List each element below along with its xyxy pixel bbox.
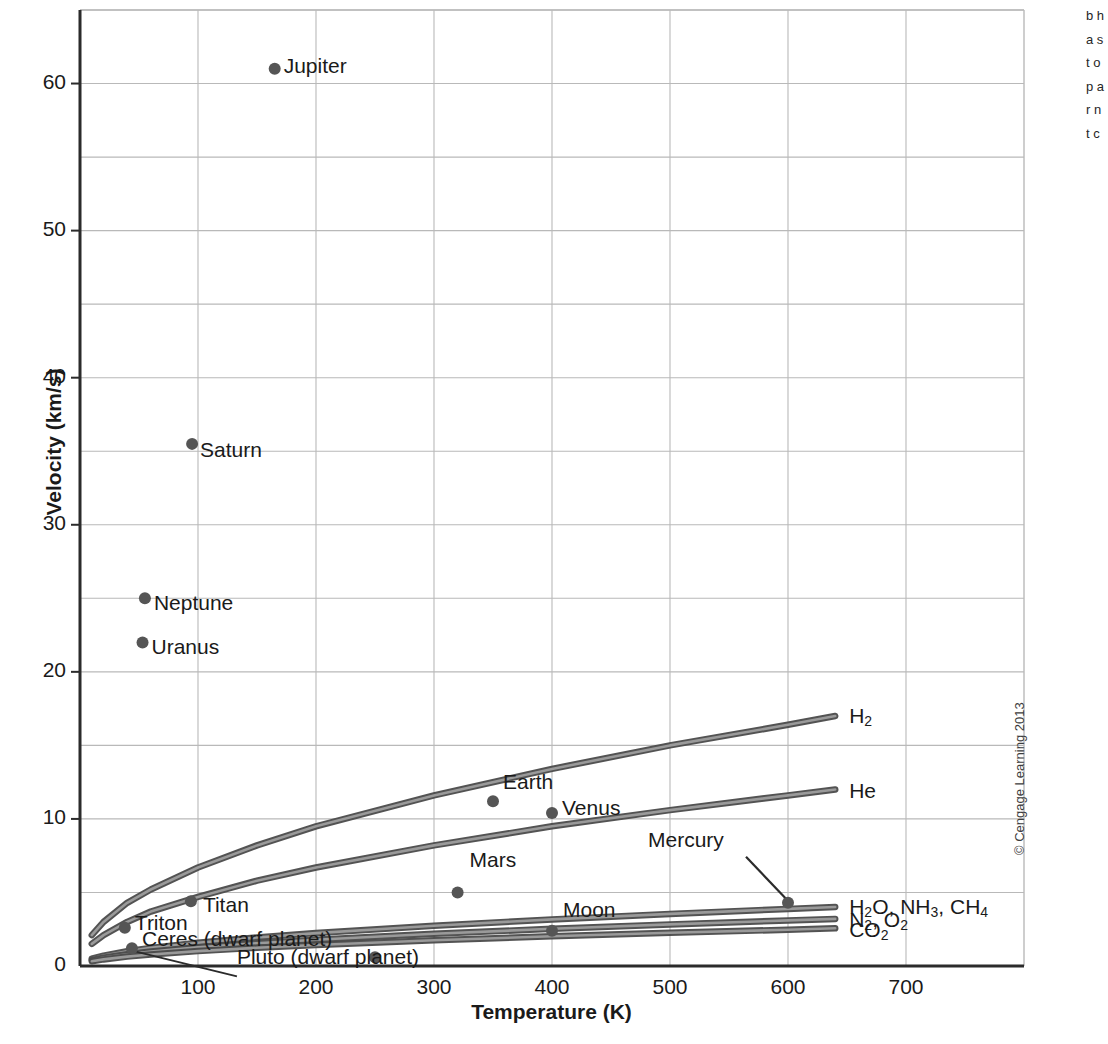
y-tick-0: 0: [14, 952, 66, 976]
point-label-saturn: Saturn: [200, 438, 262, 462]
curve-label-h2: H2: [849, 704, 872, 729]
y-tick-20: 20: [14, 658, 66, 682]
y-tick-40: 40: [14, 364, 66, 388]
x-axis-title: Temperature (K): [79, 1000, 1024, 1024]
axis-frame: [71, 10, 1024, 966]
x-tick-700: 700: [866, 975, 946, 999]
point-label-titan: Titan: [203, 893, 249, 917]
point-label-ceres-dwarf-planet: Ceres (dwarf planet): [142, 927, 332, 951]
curve-label-he: He: [849, 779, 876, 803]
gridlines: [80, 10, 1024, 966]
point-label-neptune: Neptune: [154, 591, 233, 615]
point-label-moon: Moon: [563, 898, 616, 922]
x-tick-300: 300: [394, 975, 474, 999]
point-label-earth: Earth: [503, 770, 553, 794]
point-label-venus: Venus: [562, 796, 620, 820]
x-tick-600: 600: [748, 975, 828, 999]
x-tick-400: 400: [512, 975, 592, 999]
edge-caption-fragment: b h a s t o p a r n t c: [1086, 4, 1108, 240]
point-label-jupiter: Jupiter: [284, 54, 347, 78]
point-label-mars: Mars: [470, 848, 517, 872]
x-tick-200: 200: [276, 975, 356, 999]
y-tick-30: 30: [14, 511, 66, 535]
y-tick-10: 10: [14, 805, 66, 829]
copyright-credit: © Cengage Learning 2013: [1012, 655, 1027, 855]
y-tick-60: 60: [14, 70, 66, 94]
point-label-uranus: Uranus: [152, 635, 220, 659]
y-tick-50: 50: [14, 217, 66, 241]
point-label-mercury: Mercury: [648, 828, 724, 852]
x-tick-100: 100: [158, 975, 238, 999]
curve-label-co2: CO2: [849, 918, 888, 943]
x-tick-500: 500: [630, 975, 710, 999]
